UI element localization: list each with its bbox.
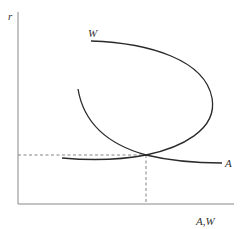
diagram-canvas: r W A A,W	[0, 0, 244, 229]
w-curve	[62, 41, 213, 160]
y-axis-label: r	[8, 10, 13, 22]
a-curve-label: A	[224, 157, 232, 169]
a-curve	[78, 89, 222, 163]
x-axis-label: A,W	[195, 215, 215, 227]
w-curve-label: W	[88, 27, 98, 39]
